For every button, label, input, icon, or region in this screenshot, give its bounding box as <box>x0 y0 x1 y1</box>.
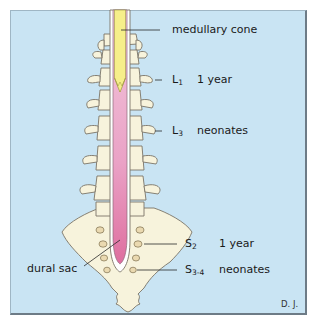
label-s3-4: S3-4 <box>185 264 204 277</box>
label-s2: S2 <box>185 238 197 251</box>
label-l1-sub: 1 <box>178 78 183 87</box>
label-s3-4-level: S <box>185 263 192 276</box>
spine-diagram <box>0 0 315 327</box>
label-l3-age: neonates <box>197 125 248 136</box>
label-l1: L1 <box>172 74 183 87</box>
label-medullary-cone: medullary cone <box>172 24 257 35</box>
label-l3-sub: 3 <box>178 129 183 138</box>
label-s2-age: 1 year <box>219 238 254 249</box>
label-s2-level: S <box>185 237 192 250</box>
label-dural-sac: dural sac <box>27 263 77 274</box>
spinal-cord <box>115 10 126 92</box>
label-s3-4-sub: 3-4 <box>192 268 204 277</box>
label-s2-sub: 2 <box>192 242 197 251</box>
label-l1-age: 1 year <box>197 74 232 85</box>
credit-initials: D. J. <box>281 300 298 309</box>
label-l3: L3 <box>172 125 183 138</box>
label-s3-4-age: neonates <box>219 264 270 275</box>
